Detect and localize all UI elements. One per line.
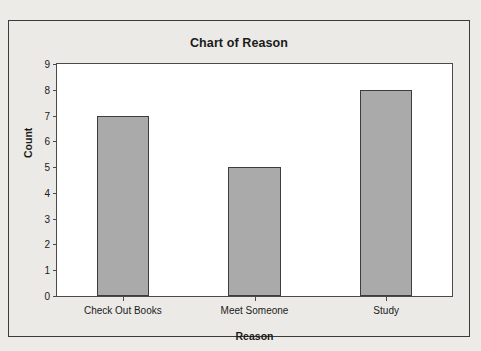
y-axis-tick-label: 8 <box>44 84 50 95</box>
y-axis-tick <box>53 64 57 65</box>
y-axis-tick <box>53 270 57 271</box>
y-axis-tick <box>53 141 57 142</box>
chart-screenshot: Chart of Reason Count 0123456789Check Ou… <box>0 0 481 351</box>
y-axis-tick <box>53 116 57 117</box>
bar <box>360 90 413 296</box>
y-axis-tick-label: 5 <box>44 162 50 173</box>
x-axis-tick <box>386 296 387 301</box>
x-axis-tick-label: Check Out Books <box>84 305 162 316</box>
y-axis-tick <box>53 193 57 194</box>
y-axis-tick <box>53 296 57 297</box>
chart-title: Chart of Reason <box>9 36 469 50</box>
y-axis-tick-label: 6 <box>44 136 50 147</box>
y-axis-tick-label: 3 <box>44 213 50 224</box>
y-axis-title: Count <box>22 128 34 158</box>
y-axis-tick-label: 2 <box>44 239 50 250</box>
x-axis-tick <box>255 296 256 301</box>
y-axis-tick <box>53 90 57 91</box>
y-axis-tick <box>53 244 57 245</box>
y-axis-tick <box>53 219 57 220</box>
y-axis-tick-label: 7 <box>44 110 50 121</box>
bar <box>228 167 281 296</box>
y-axis-tick-label: 4 <box>44 187 50 198</box>
chart-figure-frame: Chart of Reason Count 0123456789Check Ou… <box>8 20 470 337</box>
plot-area: 0123456789Check Out BooksMeet SomeoneStu… <box>56 63 453 297</box>
plot-inner: 0123456789Check Out BooksMeet SomeoneStu… <box>57 64 452 296</box>
x-axis-tick <box>123 296 124 301</box>
bar <box>97 116 150 296</box>
y-axis-tick <box>53 167 57 168</box>
x-axis-tick-label: Study <box>373 305 399 316</box>
x-axis-title: Reason <box>56 330 453 342</box>
y-axis-tick-label: 9 <box>44 59 50 70</box>
y-axis-tick-label: 0 <box>44 291 50 302</box>
y-axis-tick-label: 1 <box>44 265 50 276</box>
x-axis-tick-label: Meet Someone <box>221 305 289 316</box>
